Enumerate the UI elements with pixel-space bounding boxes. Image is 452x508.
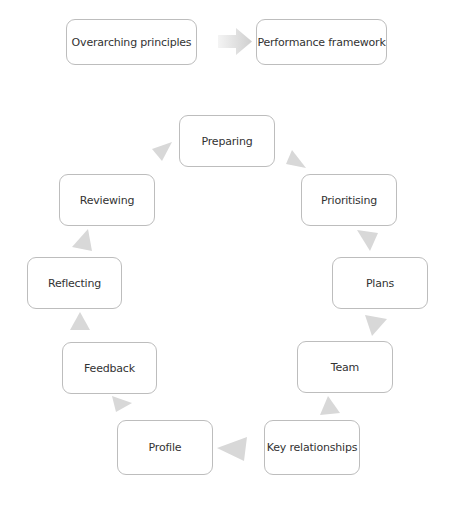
arrow-icon — [72, 229, 92, 251]
node-label: Profile — [149, 441, 182, 454]
arrow-icon — [320, 396, 340, 415]
arrow-right-icon — [218, 28, 252, 55]
cycle-node-plans: Plans — [332, 257, 428, 309]
cycle-node-key-relationships: Key relationships — [264, 420, 360, 475]
cycle-node-reviewing: Reviewing — [59, 174, 155, 226]
box-label: Performance framework — [257, 36, 385, 49]
box-label: Overarching principles — [72, 36, 192, 49]
performance-framework-box: Performance framework — [256, 19, 387, 65]
arrow-icon — [357, 230, 378, 251]
node-label: Feedback — [84, 362, 135, 375]
node-label: Prioritising — [321, 194, 377, 207]
cycle-node-prioritising: Prioritising — [301, 174, 397, 226]
cycle-node-team: Team — [297, 341, 393, 393]
arrow-icon — [365, 315, 387, 336]
node-label: Reviewing — [80, 194, 134, 207]
node-label: Key relationships — [267, 441, 357, 454]
arrow-icon — [152, 142, 172, 161]
cycle-node-preparing: Preparing — [179, 115, 275, 167]
node-label: Preparing — [202, 135, 253, 148]
node-label: Plans — [366, 277, 394, 290]
cycle-node-reflecting: Reflecting — [27, 257, 122, 309]
arrow-icon — [70, 312, 90, 330]
arrow-icon — [286, 150, 306, 168]
cycle-node-profile: Profile — [117, 420, 213, 475]
arrow-icon — [112, 396, 132, 412]
arrow-icon — [217, 437, 247, 461]
node-label: Reflecting — [48, 277, 101, 290]
overarching-principles-box: Overarching principles — [66, 19, 197, 65]
node-label: Team — [331, 361, 359, 374]
connector-arrows — [0, 0, 452, 508]
cycle-node-feedback: Feedback — [62, 342, 157, 394]
